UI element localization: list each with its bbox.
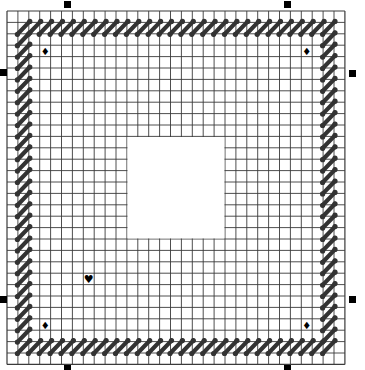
stitch-dot [320,203,325,208]
stitch-dot [255,351,260,356]
stitch-dot [202,338,207,343]
stitch-dot [178,351,183,356]
stitch-dot [15,271,20,276]
stitch-dot [289,338,294,343]
stitch-dot [320,191,325,196]
stitch-dot [256,19,261,24]
stitch-dot [320,317,325,322]
stitch-dot [320,180,325,185]
stitch-dot [27,258,32,263]
stitch-dot [320,43,325,48]
resize-handle-left-top[interactable] [0,69,7,76]
blank-center-area [128,137,225,238]
resize-handle-left-bottom[interactable] [0,296,7,303]
resize-handle-top-left[interactable] [64,1,71,8]
stitch-dot [178,32,183,37]
stitch-dot [15,134,20,139]
stitch-dot [256,338,261,343]
stitch-dot [332,156,337,161]
stitch-dot [27,42,32,47]
stitch-dot [332,178,337,183]
stitch-dot [332,19,337,24]
stitch-dot [27,315,32,320]
stitch-dot [15,112,20,117]
stitch-dot [38,338,43,343]
stitch-dot [27,99,32,104]
stitch-dot [332,30,337,35]
stitch-dot [15,146,20,151]
resize-handle-bottom-left[interactable] [64,365,71,370]
stitch-dot [332,133,337,138]
stitch-dot [91,351,96,356]
stitch-dot [60,338,65,343]
stitch-dot [104,338,109,343]
stitch-dot [213,19,218,24]
stitch-dot [320,100,325,105]
stitch-dot [113,351,118,356]
stitch-dot [114,19,119,24]
stitch-dot [27,87,32,92]
stitch-dot [332,235,337,240]
stitch-dot [245,19,250,24]
resize-handle-bottom-right[interactable] [284,365,291,370]
diamond-symbol-icon: ♦ [302,320,311,331]
stitch-dot [58,32,63,37]
stitch-dot [27,281,32,286]
stitch-dot [27,327,32,332]
resize-handle-top-right[interactable] [284,1,291,8]
stitch-dot [27,292,32,297]
stitch-dot [125,338,130,343]
stitch-dot [48,32,53,37]
stitch-dot [332,99,337,104]
diamond-symbol-icon: ♦ [41,46,50,57]
stitch-dot [135,351,140,356]
stitch-dot [15,328,20,333]
stitch-dot [93,338,98,343]
stitch-dot [332,190,337,195]
stitch-dot [320,66,325,71]
stitch-dot [27,270,32,275]
stitch-dot [69,351,74,356]
stitch-dot [15,317,20,322]
stitch-dot [320,260,325,265]
stitch-dot [27,53,32,58]
stitch-dot [332,121,337,126]
stitch-dot [114,338,119,343]
stitch-dot [320,214,325,219]
stitch-dot [266,32,271,37]
stitch-dot [276,351,281,356]
stitch-dot [332,110,337,115]
stitch-dot [278,338,283,343]
stitch-dot [245,338,250,343]
resize-handle-right-bottom[interactable] [349,296,356,303]
stitch-dot [278,19,283,24]
stitch-dot [213,338,218,343]
stitch-dot [82,19,87,24]
stitch-dot [332,247,337,252]
stitch-dot [15,43,20,48]
stitch-dot [15,89,20,94]
stitch-dot [223,338,228,343]
stitch-dot [298,32,303,37]
stitch-dot [320,32,325,37]
stitch-dot [71,19,76,24]
stitch-dot [202,19,207,24]
stitch-dot [200,32,205,37]
stitch-dot [82,338,87,343]
stitch-dot [332,338,337,343]
resize-handle-right-top[interactable] [349,70,356,77]
stitch-dot [146,351,151,356]
stitch-dot [15,123,20,128]
pattern-grid-canvas: ♦♦♦♦♥ [0,0,365,370]
stitch-dot [320,169,325,174]
stitch-dot [211,351,216,356]
stitch-dot [49,19,54,24]
stitch-dot [27,156,32,161]
stitch-dot [191,19,196,24]
stitch-dot [15,214,20,219]
stitch-dot [80,351,85,356]
stitch-dot [320,226,325,231]
stitch-dot [180,19,185,24]
stitch-dot [332,315,337,320]
stitch-dot [222,32,227,37]
